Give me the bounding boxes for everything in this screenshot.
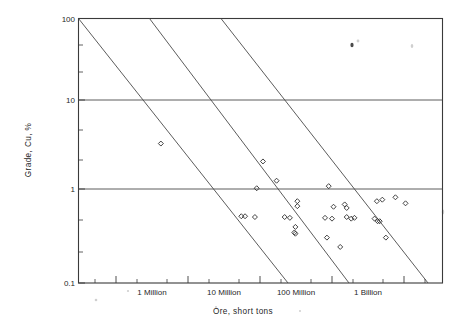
- x-axis-title: Ore, short tons: [213, 307, 273, 316]
- y-axis-title: Grade, Cu, %: [24, 123, 33, 177]
- x-tick-label-1-billion: 1 Billion: [354, 288, 382, 297]
- x-tick-label-10-million: 10 Million: [207, 288, 241, 297]
- x-tick-label-100-million: 100 Million: [277, 288, 315, 297]
- y-tick-label-1: 1: [71, 185, 76, 194]
- y-tick-label-10: 10: [66, 96, 75, 105]
- x-tick-label-1-million: 1 Million: [137, 288, 166, 297]
- grade-tonnage-scatter-plot: 100 10 1 0.1 1 Million: [0, 0, 463, 318]
- chart-background: [0, 0, 463, 318]
- chart-figure: 100 10 1 0.1 1 Million: [0, 0, 463, 318]
- y-tick-label-100: 100: [62, 15, 76, 24]
- y-tick-label-0.1: 0.1: [64, 279, 76, 288]
